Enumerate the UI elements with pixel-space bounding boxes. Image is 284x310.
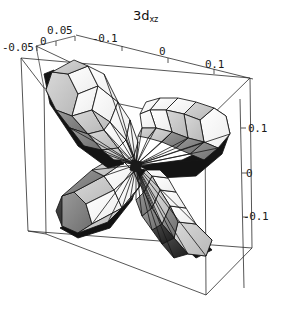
plot-title-main: 3d — [133, 8, 150, 23]
lower-right-lobe — [136, 165, 212, 258]
x-axis-stem — [36, 46, 44, 88]
upper-left-lobe — [44, 60, 138, 168]
y-axis-tick-label-0.1: 0.1 — [205, 58, 224, 71]
plot-title: 3dxz — [133, 8, 158, 23]
orbital-origin — [130, 160, 142, 172]
box-edge-tl — [21, 58, 44, 88]
x-axis-tick-label--0.05: -0.05 — [2, 41, 34, 54]
y-axis-tick-label-0: 0 — [159, 45, 165, 58]
x-axis-tick-label-0: 0 — [40, 35, 46, 48]
y-axis-tick-label--0.1: -0.1 — [92, 32, 117, 45]
orbital-plot-figure: 3dxz 0.05 0 -0.05 -0.1 0 0.1 0.1 0 -0.1 — [0, 0, 284, 310]
lower-left-lobe — [56, 157, 140, 238]
upper-right-lobe — [136, 98, 230, 178]
box-edge-br — [206, 248, 252, 295]
z-axis-tick-label-0: 0 — [246, 167, 252, 180]
x-axis-tick-label-0.05: 0.05 — [47, 24, 72, 37]
plot-title-subscript: xz — [150, 15, 159, 24]
z-axis-tick-label--0.1: -0.1 — [243, 210, 268, 223]
z-axis-tick-label-0.1: 0.1 — [248, 122, 267, 135]
